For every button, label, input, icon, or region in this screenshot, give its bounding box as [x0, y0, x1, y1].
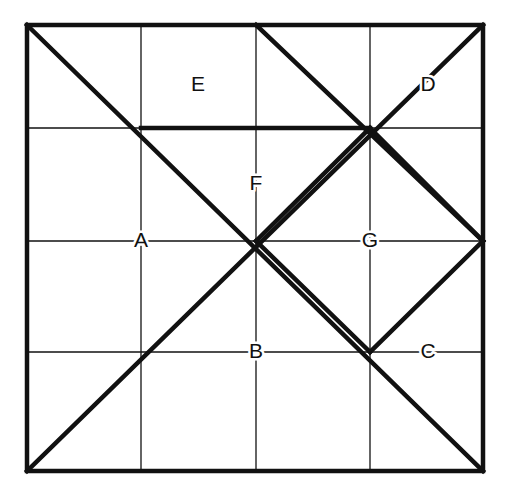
point-label-B: B [249, 339, 263, 362]
point-label-F: F [250, 171, 263, 194]
point-label-E: E [191, 72, 205, 95]
figure-canvas: ABCDEFG [0, 0, 509, 497]
point-label-C: C [420, 339, 435, 362]
point-label-A: A [134, 228, 148, 251]
point-label-D: D [420, 72, 435, 95]
point-label-G: G [362, 228, 378, 251]
geometry-figure: ABCDEFG [0, 0, 509, 497]
